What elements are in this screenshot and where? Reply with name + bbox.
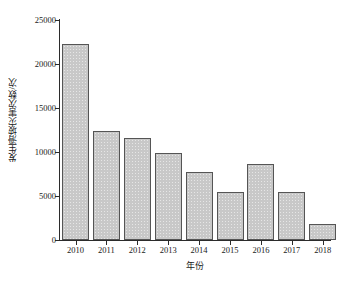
y-axis-tick-label: 5000 <box>14 192 56 201</box>
bar <box>93 131 120 240</box>
x-axis-title: 年份 <box>59 262 331 271</box>
y-axis-tick-label: 10000 <box>14 148 56 157</box>
bar <box>155 153 182 240</box>
bar <box>217 192 244 240</box>
y-axis-tick-label: 15000 <box>14 104 56 113</box>
bar <box>278 192 305 240</box>
x-axis-tick-label: 2011 <box>98 245 115 255</box>
y-axis-tick-label: 20000 <box>14 60 56 69</box>
x-axis-tick-label: 2010 <box>67 245 84 255</box>
bar <box>309 224 336 240</box>
y-axis-tick-label: 25000 <box>14 16 56 25</box>
y-axis-tick-label: 0 <box>14 236 56 245</box>
x-axis-tick-label: 2018 <box>314 245 331 255</box>
bar <box>62 44 89 240</box>
x-axis-tick-label: 2014 <box>191 245 208 255</box>
x-axis-tick-label: 2016 <box>252 245 269 255</box>
x-axis-tick-labels: 201020112012201320142015201620172018 <box>59 245 331 259</box>
plot-area <box>59 20 331 240</box>
y-axis-tick-labels: 0500010000150002000025000 <box>14 0 56 283</box>
bar <box>124 138 151 240</box>
bar-chart: 发生滑坡灾害次数/次 0500010000150002000025000 201… <box>0 0 344 283</box>
x-axis-tick-label: 2015 <box>222 245 239 255</box>
x-axis-tick-label: 2013 <box>160 245 177 255</box>
bar <box>247 164 274 240</box>
x-axis-tick-label: 2012 <box>129 245 146 255</box>
x-axis-tick-label: 2017 <box>283 245 300 255</box>
bar <box>186 172 213 240</box>
